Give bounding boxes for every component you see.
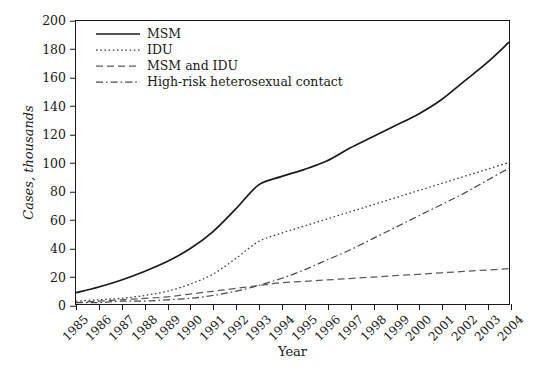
x-axis-tick-mark [442,304,443,310]
y-axis-tick: 20 [50,271,76,284]
series-line-idu [76,163,509,302]
y-axis-tick: 200 [42,15,76,28]
x-axis-tick-mark [305,304,306,310]
x-axis-tick-mark [511,304,512,310]
x-axis-tick-mark [397,304,398,310]
x-axis-tick-mark [488,304,489,310]
x-axis-tick-mark [465,304,466,310]
x-axis-tick-label: 2002 [450,313,480,343]
legend-line-swatch [96,45,140,55]
x-axis-tick-mark [122,304,123,310]
y-axis-tick-label: 140 [42,100,70,113]
y-axis-tick-label: 40 [50,243,70,256]
legend-item: MSM [96,26,343,42]
x-axis-tick-label: 2003 [472,313,502,343]
x-axis-tick-label: 1994 [266,313,296,343]
x-axis-tick-label: 1988 [129,313,159,343]
series-line-msm-and-idu [76,269,509,303]
y-axis-tick-label: 160 [42,72,70,85]
legend-item: High-risk heterosexual contact [96,74,343,90]
x-axis-tick-mark [328,304,329,310]
y-axis-tick: 80 [50,186,76,199]
y-axis-tick: 160 [42,72,76,85]
legend-item-label: IDU [147,44,173,57]
x-axis-tick-mark [282,304,283,310]
y-axis-tick-label: 0 [58,300,70,313]
x-axis-tick-mark [419,304,420,310]
x-axis-tick-label: 1993 [244,313,274,343]
legend-line-swatch [96,29,140,39]
y-axis-tick: 40 [50,243,76,256]
y-axis-tick: 60 [50,214,76,227]
chart-page: Cases, thousands 02040608010012014016018… [0,0,533,370]
y-axis-tick-label: 60 [50,214,70,227]
y-axis-title-text: Cases, thousands [21,105,36,220]
y-axis-title: Cases, thousands [18,20,38,305]
legend-item: MSM and IDU [96,58,343,74]
y-axis-tick-label: 80 [50,186,70,199]
y-axis-tick: 120 [42,129,76,142]
x-axis-tick-mark [190,304,191,310]
y-axis-tick: 140 [42,100,76,113]
x-axis-tick-label: 2001 [427,313,457,343]
x-axis-tick-label: 1992 [221,313,251,343]
y-axis-tick-label: 20 [50,271,70,284]
x-axis-tick-label: 2004 [495,313,525,343]
legend-item: IDU [96,42,343,58]
x-axis-tick-label: 1986 [83,313,113,343]
x-axis-tick-label: 1987 [106,313,136,343]
x-axis-tick-label: 1998 [358,313,388,343]
legend-line-swatch [96,77,140,87]
x-axis-tick-mark [236,304,237,310]
x-axis-title: Year [75,344,510,359]
x-axis-tick-label: 1997 [335,313,365,343]
x-axis-tick-mark [168,304,169,310]
x-axis-tick-label: 1985 [60,313,90,343]
y-axis-tick-label: 180 [42,43,70,56]
y-axis-tick-label: 200 [42,15,70,28]
y-axis-tick: 100 [42,157,76,170]
x-axis-tick-mark [99,304,100,310]
y-axis-tick-label: 120 [42,129,70,142]
x-axis-tick-mark [374,304,375,310]
chart-legend: MSMIDUMSM and IDUHigh-risk heterosexual … [96,26,343,90]
series-line-high-risk-heterosexual-contact [76,168,509,303]
x-axis-tick-mark [213,304,214,310]
x-axis-tick-mark [76,304,77,310]
x-axis-tick-mark [351,304,352,310]
x-axis-tick-label: 1996 [312,313,342,343]
y-axis-tick-label: 100 [42,157,70,170]
x-axis-tick-mark [259,304,260,310]
legend-item-label: High-risk heterosexual contact [147,76,343,89]
x-axis-tick-mark [145,304,146,310]
x-axis-tick-label: 1991 [198,313,228,343]
y-axis-tick: 0 [58,300,76,313]
legend-item-label: MSM [147,28,181,41]
legend-item-label: MSM and IDU [147,60,238,73]
y-axis-tick: 180 [42,43,76,56]
legend-line-swatch [96,61,140,71]
